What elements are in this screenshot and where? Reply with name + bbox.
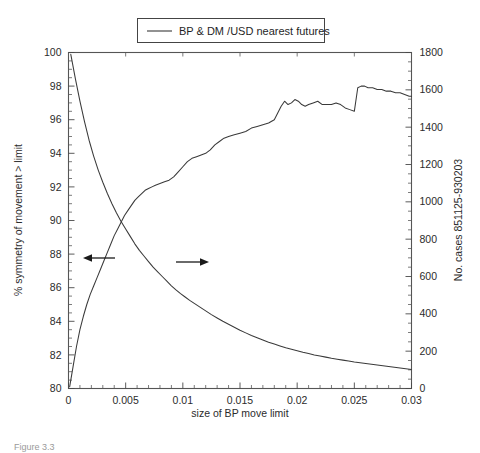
legend: BP & DM /USD nearest futures	[138, 19, 331, 43]
left-tick-label: 82	[50, 349, 62, 361]
right-tick-label: 800	[420, 233, 438, 245]
left-tick-label: 96	[50, 113, 62, 125]
secondary-y-axis-title: No. cases 851125-930203	[452, 159, 464, 282]
bottom-tick-label: 0.005	[113, 394, 139, 406]
left-tick-label: 94	[50, 147, 62, 159]
right-axis-ticks	[406, 53, 412, 389]
right-tick-label: 400	[420, 307, 438, 319]
left-axis-ticks	[69, 53, 75, 389]
x-axis-title: size of BP move limit	[191, 407, 288, 419]
right-tick-label: 1600	[420, 83, 444, 95]
right-tick-label: 0	[420, 382, 426, 394]
left-tick-label: 90	[50, 214, 62, 226]
left-tick-label: 86	[50, 281, 62, 293]
right-axis-tick-labels: 020040060080010001200140016001800	[420, 46, 444, 394]
bottom-axis-ticks	[69, 383, 412, 389]
series-line-no-cases	[71, 54, 412, 369]
top-axis-ticks	[69, 53, 412, 57]
series-line-percent-symmetry	[70, 86, 412, 387]
bottom-tick-label: 0.02	[287, 394, 308, 406]
right-tick-label: 600	[420, 270, 438, 282]
right-tick-label: 1000	[420, 195, 444, 207]
right-arrow-annotation	[176, 258, 209, 266]
bottom-tick-label: 0.03	[401, 394, 422, 406]
bottom-tick-label: 0	[66, 394, 72, 406]
right-tick-label: 1400	[420, 121, 444, 133]
left-tick-label: 88	[50, 248, 62, 260]
bottom-tick-label: 0.015	[227, 394, 253, 406]
figure-caption: Figure 3.3	[14, 442, 55, 452]
legend-label: BP & DM /USD nearest futures	[179, 25, 330, 37]
figure-root: 80828486889092949698100 0200400600800100…	[0, 0, 480, 453]
bottom-tick-label: 0.01	[173, 394, 194, 406]
bottom-tick-label: 0.025	[341, 394, 367, 406]
left-tick-label: 92	[50, 181, 62, 193]
plot-frame	[69, 53, 412, 389]
y-axis-title: % symmetry of movement > limit	[12, 144, 24, 296]
left-tick-label: 100	[44, 46, 62, 58]
right-tick-label: 200	[420, 345, 438, 357]
right-tick-label: 1200	[420, 158, 444, 170]
chart-canvas: 80828486889092949698100 0200400600800100…	[0, 0, 480, 453]
right-tick-label: 1800	[420, 46, 444, 58]
left-tick-label: 98	[50, 80, 62, 92]
left-arrow-annotation	[83, 254, 115, 262]
left-axis-tick-labels: 80828486889092949698100	[44, 46, 62, 394]
left-tick-label: 80	[50, 382, 62, 394]
left-tick-label: 84	[50, 315, 62, 327]
bottom-axis-tick-labels: 00.0050.010.0150.020.0250.03	[66, 394, 422, 406]
